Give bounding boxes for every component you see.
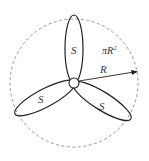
- hub-circle: [69, 78, 79, 88]
- label-lobe-left: S: [38, 93, 44, 105]
- diagram-canvas: S S S R πR2: [0, 0, 149, 161]
- label-radius: R: [99, 63, 107, 75]
- label-area-exp: 2: [113, 44, 117, 52]
- label-area: πR2: [102, 44, 117, 56]
- label-lobe-top: S: [71, 44, 77, 56]
- label-lobe-right: S: [99, 100, 105, 112]
- lobes: [11, 15, 136, 127]
- label-area-base: πR: [102, 45, 113, 56]
